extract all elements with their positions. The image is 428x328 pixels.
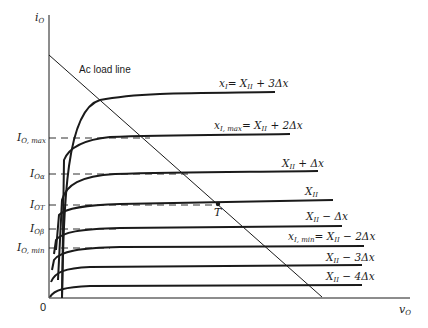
io-alpha-label: IOα: [30, 168, 45, 181]
x-axis-label: vO: [399, 304, 411, 317]
y-axis-label: iO: [35, 12, 44, 25]
curve-minus3-line: [51, 265, 362, 282]
io-max-label: IO, max: [17, 132, 46, 145]
curve-minus3-label: XII − 3Δx: [326, 252, 375, 265]
io-min-label: IO, min: [17, 242, 45, 255]
io-t-label: IOT: [30, 199, 45, 212]
ac-load-line: [49, 55, 322, 297]
operating-point-label: T: [214, 207, 221, 218]
curve-plus3-label: xI= XII + 3Δx: [219, 78, 289, 91]
curve-plus1-line: [58, 171, 318, 280]
curve-plus1-label: XII + Δx: [282, 158, 324, 171]
curve-minus1-label: XII − Δx: [306, 211, 348, 224]
io-beta-label: IOβ: [30, 223, 44, 236]
origin-label: 0: [40, 302, 46, 313]
curve-minus4-label: XII − 4Δx: [326, 271, 375, 284]
curve-zero-label: XII: [305, 186, 318, 199]
load-line-label: Ac load line: [79, 65, 131, 75]
curve-plus2-line: [62, 134, 290, 298]
curve-minus2-label: xI, min= XII − 2Δx: [288, 231, 375, 244]
curve-plus2-label: xI, max= XII + 2Δx: [214, 120, 303, 133]
